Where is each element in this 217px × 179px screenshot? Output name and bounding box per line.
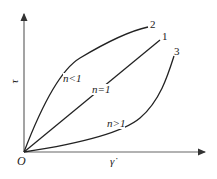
curve-3-n-greater-1 [24,56,174,152]
curve-1-region-label: n=1 [92,84,110,95]
curve-2-n-less-1 [24,27,148,152]
curve-2-number-label: 2 [150,19,156,30]
x-axis-label: γ̇ [110,156,114,167]
curve-2-region-label: n<1 [63,73,81,84]
y-axis-label: τ [9,80,20,84]
curve-3-number-label: 3 [174,46,180,57]
origin-label: O [17,155,26,167]
curve-3-region-label: n>1 [107,118,125,129]
curve-1-number-label: 1 [162,31,168,42]
curve-1-n-equal-1 [24,40,160,152]
